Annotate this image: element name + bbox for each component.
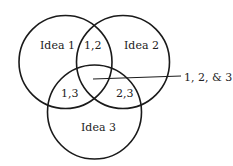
label-idea-1: Idea 1 [40,39,75,52]
label-overlap-2-3: 2,3 [116,87,134,100]
venn-diagram: Idea 1 1,2 Idea 2 1,3 2,3 Idea 3 1, 2, &… [0,0,233,166]
label-idea-3: Idea 3 [81,121,116,134]
label-idea-2: Idea 2 [124,39,159,52]
label-overlap-1-3: 1,3 [61,87,79,100]
label-overlap-1-2: 1,2 [84,39,102,52]
pointer-line-123 [93,76,181,79]
label-overlap-1-2-3: 1, 2, & 3 [184,71,232,84]
